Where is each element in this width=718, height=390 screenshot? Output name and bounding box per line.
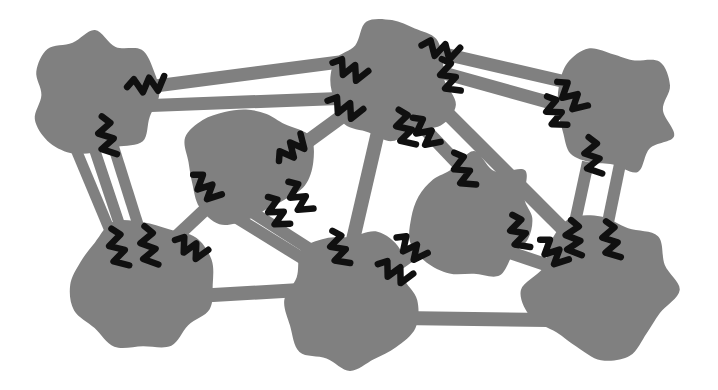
- network-graph: [0, 0, 718, 390]
- diagram-canvas: Abstract node-link network diagram Eight…: [0, 0, 718, 390]
- edge-n7-n8: [400, 318, 548, 320]
- edge-n1-n3-lower: [138, 98, 352, 106]
